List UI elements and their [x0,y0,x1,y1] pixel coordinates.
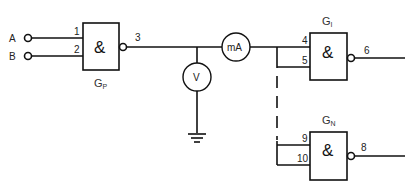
ammeter: mA [222,33,250,61]
pin-10-label: 10 [297,153,309,164]
gate-gi-inverter-bubble [348,55,355,62]
gate-gp-symbol: & [94,38,106,57]
pin-5-label: 5 [302,55,308,66]
input-b-terminal [25,53,32,60]
ammeter-label: mA [227,42,242,53]
gate-gn-inverter-bubble [348,153,355,160]
gate-gi-symbol: & [322,43,334,62]
pin-3-label: 3 [135,32,141,43]
circuit-diagram: A B 1 2 & GP 3 V mA G [0,0,420,191]
pin-8-label: 8 [361,142,367,153]
pin-1-label: 1 [74,26,80,37]
ground-icon [188,134,206,142]
gate-gn-label: GN [322,114,336,127]
input-a: A [9,33,83,44]
input-a-label: A [9,33,16,44]
gate-gn-symbol: & [322,141,334,160]
gate-gi: GI 4 5 & 6 [302,15,405,80]
gate-gi-label: GI [322,15,333,28]
input-a-terminal [25,35,32,42]
gate-gp-inverter-bubble [120,44,127,51]
gate-gn: GN 9 10 & 8 [297,114,405,180]
pin-9-label: 9 [302,133,308,144]
input-b-label: B [9,51,16,62]
pin-4-label: 4 [302,35,308,46]
pin-2-label: 2 [74,44,80,55]
gate-gp-label: GP [94,77,108,90]
input-b: B [9,51,83,62]
voltmeter: V [183,63,211,91]
voltmeter-label: V [193,72,200,83]
pin-6-label: 6 [364,45,370,56]
